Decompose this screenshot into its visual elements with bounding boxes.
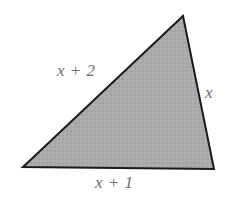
- side-label-base: x + 1: [95, 174, 134, 191]
- triangle-figure: x + 2 x x + 1: [0, 0, 238, 198]
- triangle-svg: [0, 0, 238, 198]
- side-label-right: x: [205, 84, 213, 101]
- triangle-shape: [23, 16, 214, 169]
- side-label-hypotenuse: x + 2: [57, 62, 96, 79]
